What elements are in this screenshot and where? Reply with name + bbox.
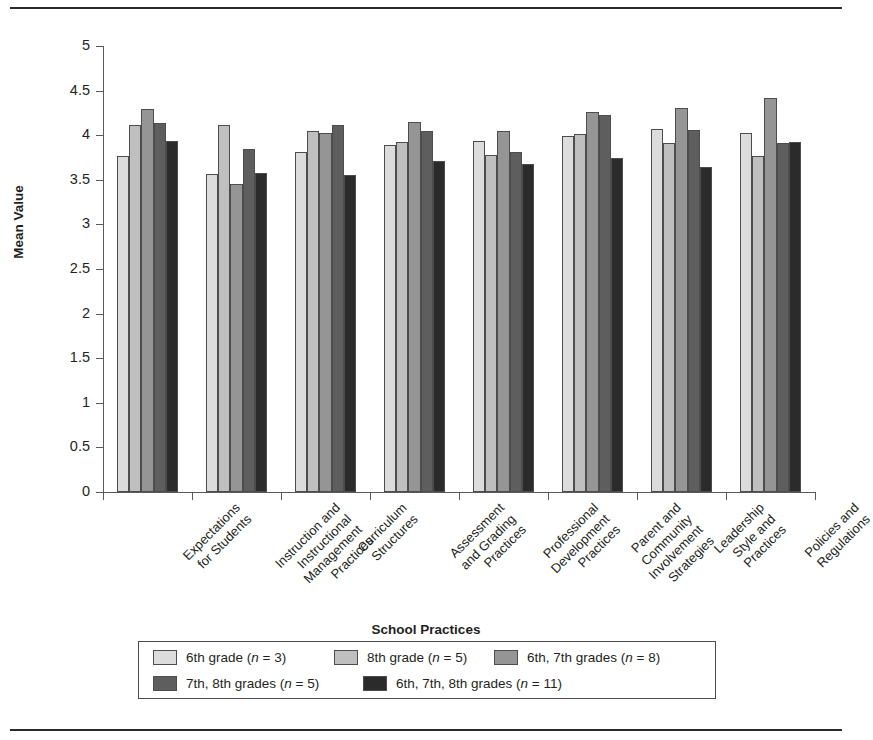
legend-label: 7th, 8th grades (n = 5) — [186, 676, 319, 691]
y-tick-label: 0.5 — [70, 438, 90, 454]
legend-swatch — [334, 650, 358, 665]
y-tick-mark — [96, 358, 103, 359]
y-tick-mark — [96, 492, 103, 493]
y-tick-mark — [96, 403, 103, 404]
bar — [433, 161, 445, 492]
bar — [522, 164, 534, 492]
bar — [218, 125, 230, 492]
legend-label: 8th grade (n = 5) — [367, 650, 467, 665]
x-tick-mark — [726, 492, 727, 500]
legend-label: 6th, 7th grades (n = 8) — [527, 650, 660, 665]
x-axis-category-label: Professional Development Practices — [537, 500, 624, 587]
x-axis-category-label: Assessment and Grading Practices — [446, 500, 529, 583]
x-tick-mark — [192, 492, 193, 500]
legend-swatch — [363, 676, 387, 691]
bar — [396, 142, 408, 492]
bar-group — [726, 46, 815, 492]
y-tick-label: 0 — [82, 483, 90, 499]
legend-label: 6th grade (n = 3) — [186, 650, 286, 665]
bar — [129, 125, 141, 492]
legend-swatch — [153, 676, 177, 691]
y-tick-mark — [96, 269, 103, 270]
bar — [473, 141, 485, 492]
bar — [141, 109, 153, 492]
plot-area: 00.511.522.533.544.55 — [103, 46, 815, 492]
x-axis-category-label: Curriculum Structures — [355, 500, 421, 566]
x-tick-mark — [459, 492, 460, 500]
legend-label: 6th, 7th, 8th grades (n = 11) — [396, 676, 562, 691]
bar — [611, 158, 623, 492]
bar — [230, 184, 242, 492]
chart-legend: 6th grade (n = 3)8th grade (n = 5)6th, 7… — [138, 641, 716, 699]
bar — [255, 173, 267, 492]
bar — [408, 122, 420, 492]
bar-group — [103, 46, 192, 492]
legend-swatch — [153, 650, 177, 665]
bar-group — [637, 46, 726, 492]
legend-item[interactable]: 7th, 8th grades (n = 5) — [153, 670, 319, 696]
x-axis-category-label: Leadership Style and Practices — [711, 500, 789, 578]
bar — [651, 129, 663, 492]
bar — [675, 108, 687, 492]
legend-item[interactable]: 6th grade (n = 3) — [153, 644, 286, 670]
x-axis-category-label: Parent and Community Involvement Strateg… — [624, 500, 717, 593]
bar — [752, 156, 764, 492]
bar — [344, 175, 356, 492]
bar — [421, 131, 433, 492]
x-tick-mark — [548, 492, 549, 500]
y-tick-label: 4 — [82, 126, 90, 142]
y-tick-mark — [96, 135, 103, 136]
bar — [117, 156, 129, 492]
bar — [562, 136, 574, 492]
x-tick-mark — [637, 492, 638, 500]
y-axis-title: Mean Value — [11, 185, 26, 259]
bar-group — [459, 46, 548, 492]
y-tick-mark — [96, 314, 103, 315]
bar — [700, 167, 712, 492]
x-axis-category-label: Policies and Regulations — [802, 500, 873, 571]
bar — [243, 149, 255, 492]
legend-row-1: 6th grade (n = 3)8th grade (n = 5)6th, 7… — [139, 644, 715, 670]
y-tick-label: 3 — [82, 215, 90, 231]
bar — [497, 131, 509, 492]
x-tick-mark — [103, 492, 104, 500]
legend-item[interactable]: 6th, 7th grades (n = 8) — [494, 644, 660, 670]
bar-group — [548, 46, 637, 492]
y-tick-label: 2 — [82, 305, 90, 321]
bar — [663, 143, 675, 492]
y-tick-label: 1 — [82, 394, 90, 410]
bar — [485, 155, 497, 492]
bar — [295, 152, 307, 492]
bar — [789, 142, 801, 492]
bar — [319, 133, 331, 492]
bar-group — [192, 46, 281, 492]
x-tick-mark — [281, 492, 282, 500]
bar — [510, 152, 522, 492]
y-tick-label: 3.5 — [70, 171, 90, 187]
legend-swatch — [494, 650, 518, 665]
x-tick-mark — [815, 492, 816, 500]
y-tick-mark — [96, 91, 103, 92]
bar — [688, 130, 700, 492]
legend-item[interactable]: 8th grade (n = 5) — [334, 644, 467, 670]
y-tick-mark — [96, 447, 103, 448]
bar — [307, 131, 319, 492]
figure-top-rule — [10, 7, 842, 9]
legend-row-2: 7th, 8th grades (n = 5)6th, 7th, 8th gra… — [139, 670, 715, 696]
y-tick-mark — [96, 224, 103, 225]
x-axis-title: School Practices — [0, 622, 852, 637]
y-tick-mark — [96, 180, 103, 181]
bar — [599, 115, 611, 492]
bar — [166, 141, 178, 492]
x-axis-category-label: Expectations for Students — [180, 500, 255, 575]
bar — [332, 125, 344, 493]
x-tick-mark — [370, 492, 371, 500]
x-axis-category-label: Instruction and Instructional Management… — [272, 500, 376, 604]
bar — [777, 143, 789, 492]
legend-item[interactable]: 6th, 7th, 8th grades (n = 11) — [363, 670, 562, 696]
y-tick-label: 4.5 — [70, 82, 90, 98]
bar — [154, 123, 166, 492]
bar — [586, 112, 598, 492]
bar — [740, 133, 752, 492]
